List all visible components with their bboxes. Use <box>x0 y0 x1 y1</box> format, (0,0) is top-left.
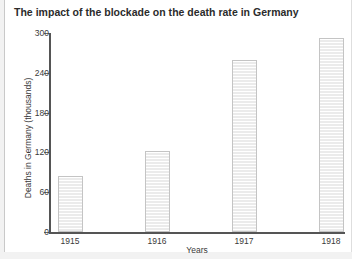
y-tick-label: 300 <box>15 28 49 38</box>
y-axis-line <box>49 33 51 233</box>
x-axis-line <box>49 232 345 234</box>
bar-1917 <box>232 60 257 232</box>
chart-card: The impact of the blockade on the death … <box>4 0 352 252</box>
y-tick-label: 120 <box>15 147 49 157</box>
y-tick-label: 60 <box>15 187 49 197</box>
y-tick-label: 240 <box>15 68 49 78</box>
bar-1918 <box>319 38 344 232</box>
bar-1916 <box>145 151 170 232</box>
x-axis-title: Years <box>49 245 345 255</box>
bar-1915 <box>58 176 83 232</box>
y-tick-label: 180 <box>15 108 49 118</box>
bar-chart-plot: Deaths in Germany (thousands) 0601201802… <box>5 0 352 252</box>
page-background: The impact of the blockade on the death … <box>0 0 352 259</box>
